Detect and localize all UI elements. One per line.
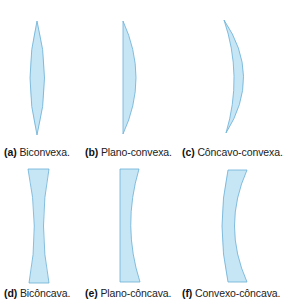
caption-text: Bicôncava. <box>20 287 70 299</box>
caption-e: (e) Plano-côncava. <box>85 287 171 299</box>
caption-c: (c) Côncavo-convexa. <box>182 146 283 158</box>
caption-text: Biconvexa. <box>19 146 69 158</box>
caption-b: (b) Plano-convexa. <box>85 146 172 158</box>
caption-letter: (c) <box>182 146 195 158</box>
caption-letter: (d) <box>4 287 17 299</box>
caption-text: Plano-côncava. <box>100 287 171 299</box>
caption-f: (f) Convexo-côncava. <box>182 287 280 299</box>
caption-d: (d) Bicôncava. <box>4 287 70 299</box>
lens-plano-convex <box>123 21 136 134</box>
lens-convex-concave <box>222 170 247 282</box>
lens-plano-concave <box>120 169 140 282</box>
caption-text: Côncavo-convexa. <box>197 146 282 158</box>
lens-biconvex <box>30 21 45 135</box>
caption-letter: (b) <box>85 146 98 158</box>
caption-text: Plano-convexa. <box>101 146 172 158</box>
caption-letter: (f) <box>182 287 192 299</box>
caption-letter: (a) <box>4 146 17 158</box>
caption-a: (a) Biconvexa. <box>4 146 70 158</box>
caption-letter: (e) <box>85 287 98 299</box>
lens-concave-convex <box>224 20 244 133</box>
caption-text: Convexo-côncava. <box>195 287 280 299</box>
lens-biconcave <box>28 169 49 283</box>
